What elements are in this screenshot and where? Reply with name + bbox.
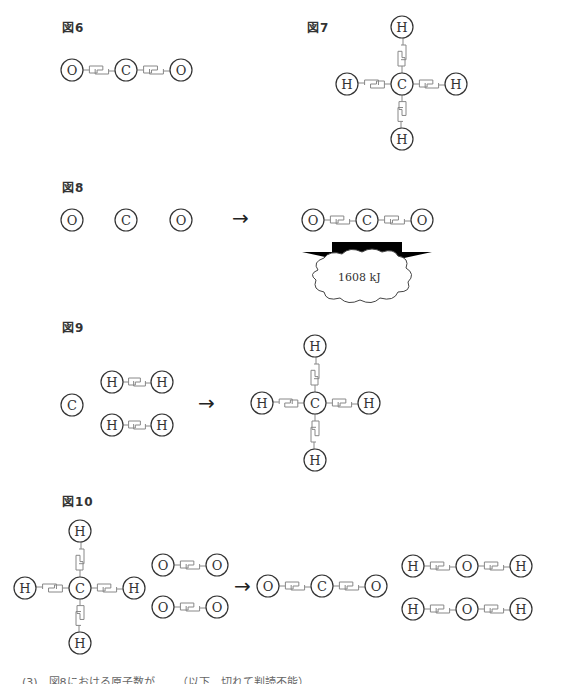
atom-c: C — [115, 209, 137, 231]
svg-text:H: H — [407, 602, 418, 617]
atom-o: O — [61, 209, 83, 231]
svg-text:H: H — [396, 20, 407, 35]
atom-h: H — [336, 73, 358, 95]
bond-link-icon — [123, 378, 151, 386]
bond-link-icon — [424, 605, 456, 613]
atom-h: H — [69, 632, 91, 654]
bond-link-icon — [324, 216, 356, 224]
question-text-truncated: (3) 図8における原子数が……（以下、切れて判読不能） — [22, 673, 309, 684]
atom-h: H — [402, 555, 424, 577]
bond-link-icon — [398, 38, 406, 73]
bond-link-icon — [137, 66, 170, 74]
svg-text:H: H — [256, 396, 267, 411]
atom-c: C — [69, 577, 91, 599]
svg-text:O: O — [462, 559, 473, 574]
atom-h: H — [510, 598, 532, 620]
bond-link-icon — [478, 605, 510, 613]
svg-text:O: O — [176, 213, 187, 228]
bond-link-icon — [333, 582, 365, 590]
bond-link-icon — [478, 562, 510, 570]
atom-h: H — [304, 449, 326, 471]
svg-text:H: H — [74, 636, 85, 651]
atom-h: H — [445, 73, 467, 95]
svg-text:H: H — [363, 396, 374, 411]
atom-h: H — [123, 577, 145, 599]
atom-o: O — [206, 554, 228, 576]
atom-c: C — [61, 394, 83, 416]
atom-h: H — [14, 577, 36, 599]
svg-text:C: C — [67, 398, 77, 413]
atom-h: H — [251, 392, 273, 414]
atom-o: O — [365, 575, 387, 597]
svg-text:O: O — [67, 213, 78, 228]
bond-link-icon — [174, 561, 206, 569]
svg-text:C: C — [75, 581, 85, 596]
svg-text:O: O — [158, 558, 169, 573]
atom-h: H — [151, 414, 173, 436]
svg-text:O: O — [308, 213, 319, 228]
bond-link-icon — [398, 95, 406, 128]
bond-link-icon — [358, 80, 391, 88]
svg-text:H: H — [309, 453, 320, 468]
svg-text:H: H — [74, 524, 85, 539]
atom-c: C — [311, 575, 333, 597]
atom-o: O — [257, 575, 279, 597]
bond-link-icon — [83, 66, 115, 74]
svg-text:O: O — [263, 579, 274, 594]
svg-text:O: O — [158, 600, 169, 615]
svg-text:H: H — [515, 559, 526, 574]
atom-o: O — [170, 59, 192, 81]
svg-text:O: O — [67, 63, 78, 78]
svg-text:O: O — [212, 600, 223, 615]
atom-h: H — [69, 520, 91, 542]
bond-link-icon — [413, 80, 445, 88]
svg-text:C: C — [310, 396, 320, 411]
bond-link-icon — [273, 399, 304, 407]
atom-h: H — [358, 392, 380, 414]
svg-text:O: O — [417, 213, 428, 228]
diagram-stage: 図6 図7 図8 図9 図10 → → → OCOCHHHHOCOOCOCHHH… — [0, 0, 561, 684]
bond-link-icon — [76, 542, 84, 577]
energy-value: 1608 kJ — [338, 271, 381, 284]
bond-link-icon — [174, 603, 206, 611]
svg-text:C: C — [121, 63, 131, 78]
svg-text:H: H — [106, 418, 117, 433]
bond-link-icon — [311, 414, 319, 449]
atom-o: O — [152, 554, 174, 576]
atom-h: H — [151, 371, 173, 393]
atom-h: H — [402, 598, 424, 620]
svg-text:H: H — [156, 375, 167, 390]
molecule-drawings: OCOCHHHHOCOOCOCHHHHCHHHHCHHHHOOOOOCOHOHH… — [0, 0, 561, 684]
svg-text:O: O — [462, 602, 473, 617]
atom-o: O — [152, 596, 174, 618]
bond-link-icon — [378, 216, 411, 224]
svg-text:H: H — [106, 375, 117, 390]
svg-text:H: H — [396, 132, 407, 147]
svg-text:H: H — [309, 339, 320, 354]
bond-link-icon — [326, 399, 358, 407]
bond-link-icon — [76, 599, 84, 632]
atom-o: O — [302, 209, 324, 231]
atom-o: O — [456, 598, 478, 620]
atom-h: H — [101, 414, 123, 436]
atom-h: H — [391, 16, 413, 38]
atom-o: O — [456, 555, 478, 577]
svg-text:C: C — [362, 213, 372, 228]
bond-link-icon — [424, 562, 456, 570]
svg-text:H: H — [407, 559, 418, 574]
svg-text:H: H — [128, 581, 139, 596]
svg-text:H: H — [515, 602, 526, 617]
atom-c: C — [356, 209, 378, 231]
atom-o: O — [170, 209, 192, 231]
atom-o: O — [206, 596, 228, 618]
svg-text:C: C — [317, 579, 327, 594]
svg-text:C: C — [397, 77, 407, 92]
atom-h: H — [510, 555, 532, 577]
svg-text:H: H — [341, 77, 352, 92]
bond-link-icon — [36, 584, 69, 592]
bond-link-icon — [279, 582, 311, 590]
atom-h: H — [304, 335, 326, 357]
bond-link-icon — [311, 357, 319, 392]
svg-text:O: O — [371, 579, 382, 594]
svg-text:O: O — [212, 558, 223, 573]
